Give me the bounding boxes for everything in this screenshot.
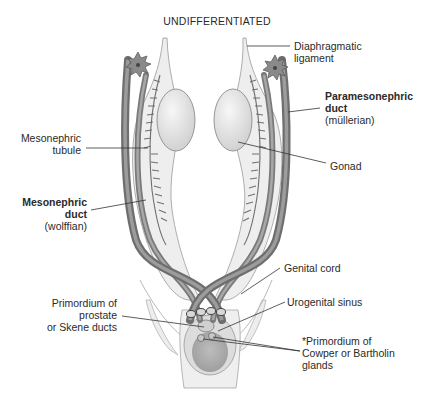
label-paramesonephric-duct: Paramesonephric duct (müllerian) (325, 90, 413, 126)
label-line: Gonad (330, 160, 362, 172)
diagram-canvas: UNDIFFERENTIATED (0, 0, 434, 407)
label-line: glands (302, 359, 395, 371)
label-line: ligament (294, 52, 362, 64)
label-line: duct (325, 102, 413, 114)
label-mesonephric-tubule: Mesonephric tubule (0, 132, 81, 156)
label-line: tubule (0, 144, 81, 156)
label-primordium-cowper: *Primordium of Cowper or Bartholin gland… (302, 335, 395, 371)
label-line: Diaphragmatic (294, 40, 362, 52)
label-line: Cowper or Bartholin (302, 347, 395, 359)
label-mesonephric-duct: Mesonephric duct (wolffian) (0, 196, 87, 232)
label-line: or Skene ducts (0, 321, 117, 333)
label-line: Urogenital sinus (287, 296, 362, 308)
label-line: *Primordium of (302, 335, 395, 347)
label-line: (müllerian) (325, 114, 413, 126)
label-line: Genital cord (284, 262, 341, 274)
label-urogenital-sinus: Urogenital sinus (287, 296, 362, 308)
label-line: Primordium of (0, 297, 117, 309)
label-line: (wolffian) (0, 220, 87, 232)
label-gonad: Gonad (330, 160, 362, 172)
left-gonad (157, 89, 195, 151)
label-line: Mesonephric (0, 196, 87, 208)
label-line: prostate (0, 309, 117, 321)
label-line: duct (0, 208, 87, 220)
label-line: Mesonephric (0, 132, 81, 144)
label-diaphragmatic-ligament: Diaphragmatic ligament (294, 40, 362, 64)
label-line: Paramesonephric (325, 90, 413, 102)
label-primordium-prostate: Primordium of prostate or Skene ducts (0, 297, 117, 333)
right-gonad (214, 89, 252, 151)
cowper-primordium-left (198, 335, 205, 342)
label-genital-cord: Genital cord (284, 262, 341, 274)
cowper-primordium-right (209, 333, 216, 340)
